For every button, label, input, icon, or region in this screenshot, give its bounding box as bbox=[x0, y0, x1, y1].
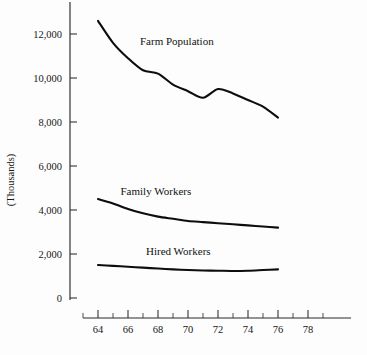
series-inline-labels: Farm PopulationFamily WorkersHired Worke… bbox=[121, 35, 215, 257]
series-line-family-workers bbox=[98, 199, 278, 228]
farm-population-line-chart: 02,0004,0006,0008,00010,00012,000 646668… bbox=[0, 0, 367, 355]
y-tick-label: 4,000 bbox=[38, 205, 62, 216]
x-tick-label: 78 bbox=[303, 324, 314, 335]
y-tick-label: 12,000 bbox=[33, 29, 62, 40]
chart-container: 02,0004,0006,0008,00010,00012,000 646668… bbox=[0, 0, 367, 355]
series-line-hired-workers bbox=[98, 265, 278, 271]
x-tick-label: 76 bbox=[273, 324, 284, 335]
y-tick-label: 8,000 bbox=[38, 117, 62, 128]
x-tick-label: 70 bbox=[183, 324, 194, 335]
series-label-family-workers: Family Workers bbox=[121, 185, 192, 197]
y-tick-label: 2,000 bbox=[38, 249, 62, 260]
x-tick-label: 66 bbox=[123, 324, 134, 335]
y-axis-title: (Thousands) bbox=[5, 153, 17, 206]
series-label-hired-workers: Hired Workers bbox=[146, 245, 211, 257]
x-tick-label: 72 bbox=[213, 324, 224, 335]
series-label-farm-population: Farm Population bbox=[140, 35, 214, 47]
y-tick-label: 0 bbox=[57, 293, 62, 304]
x-axis-ticks: 6466687072747678 bbox=[83, 310, 323, 335]
x-tick-label: 68 bbox=[153, 324, 164, 335]
y-tick-label: 10,000 bbox=[33, 73, 62, 84]
data-series bbox=[98, 21, 278, 271]
x-tick-label: 74 bbox=[243, 324, 254, 335]
y-tick-label: 6,000 bbox=[38, 161, 62, 172]
x-tick-label: 64 bbox=[93, 324, 104, 335]
